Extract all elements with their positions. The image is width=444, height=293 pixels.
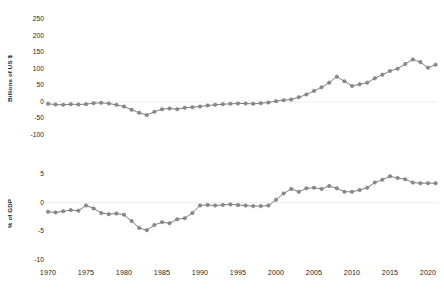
data-point: [289, 187, 293, 191]
x-tick-label: 2010: [335, 268, 369, 277]
data-point: [229, 203, 233, 207]
data-point: [320, 86, 324, 90]
x-tick-label: 1980: [107, 268, 141, 277]
data-point: [419, 60, 423, 64]
data-point: [350, 84, 354, 88]
data-point: [411, 58, 415, 62]
data-point: [175, 107, 179, 111]
data-point: [92, 101, 96, 105]
data-point: [251, 102, 255, 106]
data-point: [350, 190, 354, 194]
data-point: [358, 83, 362, 87]
data-point: [267, 101, 271, 105]
data-point: [403, 62, 407, 66]
data-point: [365, 186, 369, 190]
data-point: [434, 181, 438, 185]
data-point: [191, 211, 195, 215]
data-point: [236, 102, 240, 106]
data-point: [244, 102, 248, 106]
data-point: [115, 103, 119, 107]
data-point: [426, 181, 430, 185]
data-point: [381, 178, 385, 182]
data-point: [411, 181, 415, 185]
data-point: [221, 203, 225, 207]
data-point: [297, 190, 301, 194]
x-tick-label: 2020: [411, 268, 444, 277]
data-point: [419, 181, 423, 185]
data-point: [305, 187, 309, 191]
data-point: [388, 175, 392, 179]
data-point: [213, 204, 217, 208]
data-point: [69, 208, 73, 212]
data-point: [335, 187, 339, 191]
data-point: [251, 204, 255, 208]
data-point: [365, 81, 369, 85]
x-tick-label: 1985: [145, 268, 179, 277]
data-point: [426, 66, 430, 70]
data-point: [213, 103, 217, 107]
data-point: [274, 99, 278, 103]
data-point: [396, 176, 400, 180]
data-point: [229, 102, 233, 106]
data-point: [305, 93, 309, 97]
data-point: [99, 211, 103, 215]
data-point: [46, 102, 50, 106]
data-point: [259, 101, 263, 105]
data-point: [160, 107, 164, 111]
data-point: [145, 113, 149, 117]
data-point: [320, 187, 324, 191]
data-point: [236, 203, 240, 207]
data-point: [183, 216, 187, 220]
top-chart-plot: [0, 0, 444, 146]
data-point: [115, 212, 119, 216]
data-point: [267, 204, 271, 208]
x-tick-label: 2000: [259, 268, 293, 277]
data-point: [388, 69, 392, 73]
data-point: [153, 110, 157, 114]
data-point: [327, 81, 331, 85]
data-point: [122, 105, 126, 109]
data-point: [358, 188, 362, 192]
top-chart-panel: Billions of US $ 250200150100500-50-100: [0, 0, 444, 146]
data-point: [343, 190, 347, 194]
data-point: [343, 80, 347, 84]
data-point: [130, 108, 134, 112]
data-point: [145, 228, 149, 232]
data-point: [99, 101, 103, 105]
data-point: [69, 102, 73, 106]
data-point: [282, 192, 286, 196]
data-point: [92, 207, 96, 211]
data-point: [46, 210, 50, 214]
x-tick-label: 1995: [221, 268, 255, 277]
data-point: [137, 226, 141, 230]
data-point: [282, 98, 286, 102]
data-point: [191, 105, 195, 109]
data-point: [198, 105, 202, 109]
data-point: [183, 106, 187, 110]
data-point: [160, 220, 164, 224]
data-point: [137, 111, 141, 115]
data-point: [130, 219, 134, 223]
data-point: [373, 77, 377, 81]
data-point: [198, 204, 202, 208]
data-point: [84, 204, 88, 208]
data-point: [122, 213, 126, 217]
data-point: [312, 89, 316, 93]
data-point: [259, 204, 263, 208]
data-point: [107, 102, 111, 106]
data-point: [61, 210, 64, 214]
data-point: [206, 104, 210, 108]
chart-figure: Billions of US $ 250200150100500-50-100 …: [0, 0, 444, 293]
data-point: [107, 212, 111, 216]
x-tick-label: 2015: [373, 268, 407, 277]
data-point: [54, 211, 58, 215]
data-point: [54, 103, 58, 107]
data-point: [77, 209, 81, 213]
data-point: [84, 102, 88, 106]
data-point: [175, 218, 179, 222]
data-point: [396, 67, 400, 71]
data-point: [434, 63, 438, 67]
data-point: [244, 204, 248, 208]
data-point: [297, 95, 301, 99]
data-point: [153, 223, 157, 227]
